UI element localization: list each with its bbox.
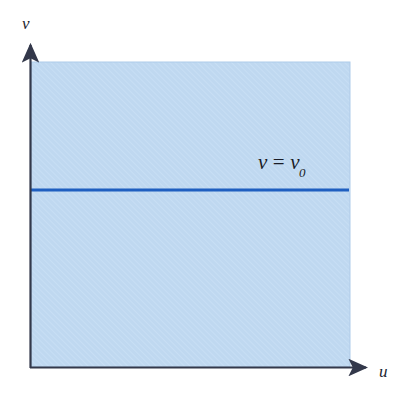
curve-label-equals: = [273, 150, 285, 174]
v-axis-label: v [22, 15, 30, 32]
u-axis-label: u [379, 363, 388, 380]
uv-plane-diagram: v u v=v0 [0, 0, 416, 407]
curve-label-subscript: 0 [299, 165, 306, 180]
diagram-canvas [0, 0, 416, 407]
curve-label-v: v [258, 150, 268, 174]
shaded-uv-region [31, 62, 350, 367]
curve-equation-label: v=v0 [258, 152, 307, 176]
